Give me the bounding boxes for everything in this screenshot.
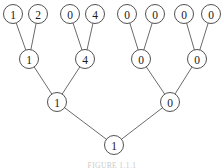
tree-node[interactable]: 2 — [29, 5, 48, 24]
node-value-label: 4 — [82, 54, 88, 66]
tree-node[interactable]: 0 — [202, 5, 221, 24]
tree-node[interactable]: 4 — [76, 50, 95, 69]
tree-node[interactable]: 0 — [175, 5, 194, 24]
node-value-label: 2 — [35, 9, 41, 21]
node-value-label: 0 — [152, 9, 158, 21]
tree-edge — [144, 23, 152, 50]
tree-node[interactable]: 0 — [61, 5, 80, 24]
tree-edge — [62, 67, 80, 94]
node-value-label: 0 — [124, 9, 130, 21]
node-value-label: 1 — [26, 54, 32, 66]
tree-edge — [34, 67, 52, 94]
node-value-label: 1 — [10, 9, 16, 21]
tree-node[interactable]: 1 — [4, 5, 23, 24]
tree-edge — [187, 23, 195, 50]
tree-edge — [122, 108, 163, 139]
node-value-label: 1 — [54, 97, 60, 109]
tree-edge — [31, 23, 36, 49]
tree-edge — [146, 67, 164, 94]
binary-tree-diagram: 120400001400101 — [0, 0, 224, 168]
figure-caption: FIGURE 1.1.1 — [0, 161, 224, 168]
tree-edge — [73, 23, 82, 50]
tree-node[interactable]: 0 — [146, 5, 165, 24]
node-value-label: 0 — [181, 9, 187, 21]
tree-node[interactable]: 1 — [48, 93, 67, 112]
tree-node[interactable]: 1 — [20, 50, 39, 69]
tree-node[interactable]: 0 — [161, 93, 180, 112]
tree-node[interactable]: 4 — [86, 5, 105, 24]
node-value-label: 4 — [92, 9, 98, 21]
tree-edge — [200, 23, 208, 50]
tree-node[interactable]: 0 — [188, 50, 207, 69]
tree-node[interactable]: 0 — [118, 5, 137, 24]
tree-edge — [65, 108, 107, 140]
node-value-label: 0 — [138, 54, 144, 66]
node-value-label: 0 — [194, 54, 200, 66]
tree-edges-group — [16, 23, 208, 139]
tree-edge — [130, 23, 138, 50]
tree-edge — [175, 67, 192, 94]
node-value-label: 0 — [67, 9, 73, 21]
figure-container: 120400001400101 FIGURE 1.1.1 — [0, 0, 224, 168]
tree-edge — [16, 23, 26, 50]
tree-edge — [87, 23, 93, 49]
node-value-label: 1 — [111, 140, 117, 152]
node-value-label: 0 — [208, 9, 214, 21]
tree-node[interactable]: 0 — [132, 50, 151, 69]
tree-node[interactable]: 1 — [105, 136, 124, 155]
node-value-label: 0 — [167, 97, 173, 109]
